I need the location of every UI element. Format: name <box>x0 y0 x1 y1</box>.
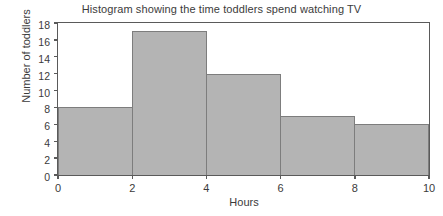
x-tick-label: 6 <box>267 182 295 194</box>
x-tick-mark <box>280 175 281 179</box>
x-tick-label: 4 <box>192 182 220 194</box>
y-tick-mark <box>54 56 58 57</box>
x-tick-label: 8 <box>341 182 369 194</box>
y-tick-mark <box>54 124 58 125</box>
x-tick-mark <box>57 175 58 179</box>
y-tick-mark <box>54 141 58 142</box>
x-tick-mark <box>132 175 133 179</box>
x-axis-label: Hours <box>57 196 431 208</box>
y-tick-mark <box>54 107 58 108</box>
x-tick-mark <box>428 175 429 179</box>
histogram-bar <box>206 74 281 175</box>
y-tick-label: 4 <box>44 137 50 149</box>
histogram-bar <box>58 107 133 175</box>
y-tick-label: 18 <box>38 19 50 31</box>
bars-layer <box>58 23 429 175</box>
y-tick-label: 10 <box>38 87 50 99</box>
plot-area: 024681012141618 0246810 <box>57 22 430 176</box>
y-axis-label: Number of toddlers <box>20 0 32 134</box>
x-tick-mark <box>354 175 355 179</box>
y-tick-label: 2 <box>44 154 50 166</box>
x-tick-label: 10 <box>415 182 443 194</box>
chart-title: Histogram showing the time toddlers spen… <box>0 3 443 15</box>
y-tick-label: 12 <box>38 70 50 82</box>
y-tick-mark <box>54 157 58 158</box>
histogram-bar <box>132 31 207 175</box>
x-tick-label: 2 <box>118 182 146 194</box>
y-tick-mark <box>54 90 58 91</box>
y-tick-mark <box>54 39 58 40</box>
x-tick-label: 0 <box>44 182 72 194</box>
histogram-bar <box>280 116 355 175</box>
histogram-chart: Histogram showing the time toddlers spen… <box>0 0 443 216</box>
y-tick-mark <box>54 73 58 74</box>
y-tick-label: 16 <box>38 36 50 48</box>
y-tick-label: 6 <box>44 120 50 132</box>
y-tick-label: 14 <box>38 53 50 65</box>
x-tick-mark <box>206 175 207 179</box>
y-tick-label: 8 <box>44 103 50 115</box>
y-tick-mark <box>54 22 58 23</box>
histogram-bar <box>354 124 429 175</box>
